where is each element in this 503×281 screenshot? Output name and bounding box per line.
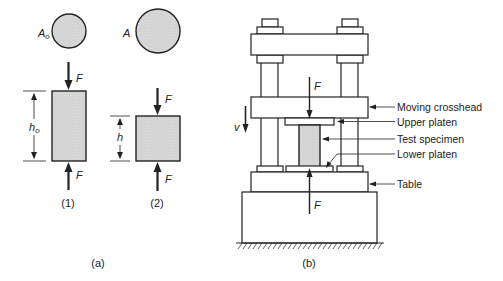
height-initial-label: ho: [29, 121, 40, 135]
initial-specimen: [52, 91, 86, 161]
part-b: F F v Moving crosshead Upper plat: [234, 19, 482, 269]
force-arrow-up: [154, 162, 162, 191]
callout-test-specimen: Test specimen: [397, 133, 464, 145]
state-2-caption: (2): [150, 197, 163, 209]
state-1: Ao F ho F (: [23, 14, 86, 209]
part-a-caption: (a): [91, 257, 104, 269]
force-label: F: [165, 173, 173, 185]
state-2: A F h F (2): [110, 9, 180, 209]
left-column-pad: [257, 166, 283, 172]
force-label: F: [76, 72, 84, 84]
force-label: F: [314, 80, 322, 92]
callout-table: Table: [397, 178, 422, 190]
fixed-crosshead: [251, 34, 368, 55]
callout-upper-platen: Upper platen: [397, 116, 457, 128]
force-label: F: [76, 169, 84, 181]
callout-moving-crosshead: Moving crosshead: [397, 101, 482, 113]
velocity-label: v: [234, 121, 241, 133]
area-final-label: A: [122, 27, 130, 39]
final-cross-section: [136, 9, 180, 53]
force-arrow-up: [65, 162, 73, 190]
upper-platen: [285, 118, 334, 125]
right-column-pad: [337, 166, 363, 172]
velocity-arrow: [243, 106, 249, 133]
part-a: Ao F ho F (: [23, 9, 180, 269]
callout-lower-platen: Lower platen: [397, 148, 457, 160]
compressed-specimen: [136, 116, 180, 161]
force-label: F: [165, 93, 173, 105]
height-final-label: h: [117, 131, 123, 143]
area-initial-label: Ao: [37, 27, 50, 41]
state-1-caption: (1): [61, 197, 74, 209]
test-specimen: [299, 125, 320, 167]
force-arrow-down: [154, 88, 162, 115]
ground-hatch: [236, 243, 384, 249]
initial-cross-section: [52, 14, 86, 48]
part-b-caption: (b): [302, 257, 315, 269]
compression-test-diagram: Ao F ho F (: [0, 0, 503, 281]
force-arrow-down: [65, 62, 73, 90]
